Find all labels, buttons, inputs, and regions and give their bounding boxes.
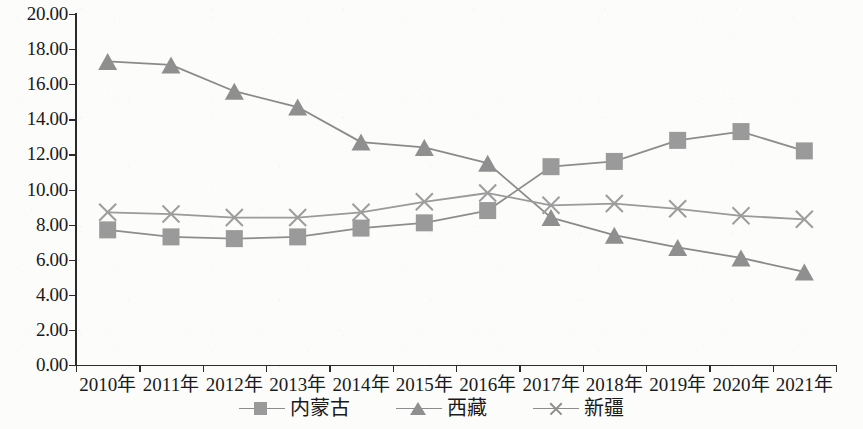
x-axis-tick [139,365,140,372]
y-axis-tick [69,365,76,366]
x-axis-tick [519,365,520,372]
triangle-marker-icon [396,399,442,417]
y-axis-tick-label: 14.00 [2,109,68,128]
y-axis-tick-label: 12.00 [2,144,68,163]
x-axis-tick-label: 2016年 [459,374,516,396]
cross-marker-icon [548,401,563,416]
series-2 [98,53,814,281]
plot-area [76,14,836,365]
square-marker-icon [796,142,813,159]
y-axis-tick-label: 10.00 [2,180,68,199]
triangle-marker-icon [605,227,624,244]
square-marker-icon [99,221,116,238]
legend-item-1[interactable]: 内蒙古 [239,398,350,418]
x-axis-tick [393,365,394,372]
y-axis-tick [69,49,76,50]
legend-item-2[interactable]: 西藏 [396,398,487,418]
triangle-marker-icon [668,239,687,256]
line-chart: 20.0018.0016.0014.0012.0010.008.006.004.… [0,0,863,429]
square-marker-icon [543,158,560,175]
x-axis-tick [266,365,267,372]
series-line [108,61,805,272]
triangle-marker-icon [795,263,814,280]
square-marker-icon [163,228,180,245]
x-axis-tick [646,365,647,372]
chart-legend: 内蒙古西藏新疆 [0,398,863,418]
x-axis-tick-label: 2010年 [79,374,136,396]
y-axis-tick-label: 16.00 [2,74,68,93]
y-axis-tick [69,119,76,120]
square-marker-icon [669,132,686,149]
square-marker-icon [226,230,243,247]
x-axis-tick-label: 2021年 [776,374,833,396]
square-marker-icon [606,153,623,170]
series-1 [99,123,813,247]
y-axis-tick [69,14,76,15]
x-axis-tick-label: 2012年 [206,374,263,396]
y-axis-tick [69,225,76,226]
x-axis-tick [456,365,457,372]
x-axis-tick [583,365,584,372]
x-axis-tick-label: 2017年 [523,374,580,396]
y-axis-tick-label: 2.00 [2,320,68,339]
legend-label: 西藏 [447,398,487,418]
square-marker-icon [289,228,306,245]
y-axis-tick-label: 4.00 [2,285,68,304]
square-marker-icon [254,402,267,415]
series-3 [99,185,813,228]
x-axis-tick [76,365,77,372]
square-marker-icon [353,220,370,237]
square-marker-icon [479,202,496,219]
square-marker-icon [733,123,750,140]
triangle-marker-icon [225,83,244,100]
x-axis-tick-label: 2014年 [333,374,390,396]
y-axis-tick-label: 18.00 [2,39,68,58]
y-axis-tick-label: 6.00 [2,250,68,269]
y-axis-tick [69,190,76,191]
x-axis-tick [329,365,330,372]
cross-marker-icon [533,399,579,417]
series-line [108,132,805,239]
square-marker-icon [416,214,433,231]
x-axis-tick-label: 2013年 [269,374,326,396]
triangle-marker-icon [478,155,497,172]
y-axis-tick-label: 8.00 [2,215,68,234]
x-axis-tick [709,365,710,372]
x-axis-tick-label: 2019年 [649,374,706,396]
y-axis-tick [69,84,76,85]
legend-item-3[interactable]: 新疆 [533,398,624,418]
triangle-marker-icon [288,99,307,116]
series-canvas [76,14,836,365]
x-axis-tick-label: 2018年 [586,374,643,396]
series-line [108,193,805,219]
x-axis-tick [203,365,204,372]
triangle-marker-icon [410,402,426,415]
y-axis-tick-label: 20.00 [2,4,68,23]
x-axis-tick-label: 2020年 [713,374,770,396]
x-axis-tick-label: 2015年 [396,374,453,396]
y-axis-tick [69,260,76,261]
x-axis-tick [836,365,837,372]
legend-label: 内蒙古 [290,398,350,418]
square-marker-icon [239,399,285,417]
y-axis-tick-label: 0.00 [2,355,68,374]
triangle-marker-icon [732,249,751,266]
x-axis-tick-label: 2011年 [143,374,199,396]
y-axis-tick [69,330,76,331]
x-axis-tick [773,365,774,372]
y-axis-labels: 20.0018.0016.0014.0012.0010.008.006.004.… [0,0,68,429]
y-axis-tick [69,295,76,296]
y-axis-tick [69,154,76,155]
legend-label: 新疆 [584,398,624,418]
